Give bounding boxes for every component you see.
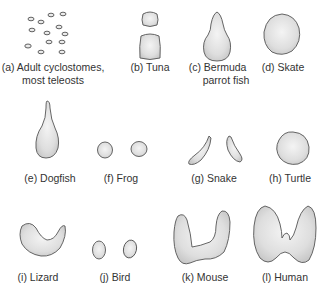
- panel-k-label-line1: (k) Mouse: [182, 271, 229, 284]
- panel-l-human-shape: [254, 206, 316, 263]
- panel-h-label-line1: (h) Turtle: [269, 172, 311, 185]
- panel-c-label-line1: (c) Bermuda: [189, 61, 250, 74]
- panel-b-label-line1: (b) Tuna: [130, 61, 169, 74]
- panel-i-label: (i) Lizard: [18, 271, 59, 284]
- panel-h-label: (h) Turtle: [269, 172, 311, 185]
- panel-a-label-line2: most teleosts: [2, 74, 105, 87]
- thyroid-comparative-anatomy-figure: (a) Adult cyclostomes, most teleosts (b)…: [0, 0, 318, 286]
- panel-d-skate-shape: [264, 14, 300, 54]
- panel-l-label-line1: (l) Human: [262, 271, 308, 284]
- panel-d-label: (d) Skate: [262, 61, 305, 74]
- panel-l-label: (l) Human: [262, 271, 308, 284]
- panel-e-label: (e) Dogfish: [24, 172, 75, 185]
- panel-h-turtle-shape: [277, 132, 309, 165]
- panel-k-label: (k) Mouse: [182, 271, 229, 284]
- panel-e-dogfish-shape: [36, 101, 59, 158]
- panel-a-follicles-shape: [25, 12, 68, 54]
- panel-f-label-line1: (f) Frog: [104, 172, 138, 185]
- panel-f-label: (f) Frog: [104, 172, 138, 185]
- panel-j-label: (j) Bird: [100, 271, 131, 284]
- panel-d-label-line1: (d) Skate: [262, 61, 305, 74]
- panel-g-label: (g) Snake: [191, 172, 237, 185]
- panel-a-label-line1: (a) Adult cyclostomes,: [2, 61, 105, 74]
- panel-i-lizard-shape: [20, 223, 65, 256]
- panel-j-bird-shape: [93, 239, 139, 259]
- panel-g-snake-shape: [189, 136, 242, 165]
- panel-j-label-line1: (j) Bird: [100, 271, 131, 284]
- gland-shapes: [0, 0, 318, 286]
- panel-f-frog-shape: [98, 142, 148, 159]
- panel-c-label-line2: parrot fish: [189, 74, 250, 87]
- panel-c-label: (c) Bermuda parrot fish: [189, 61, 250, 87]
- panel-i-label-line1: (i) Lizard: [18, 271, 59, 284]
- panel-k-mouse-shape: [174, 211, 230, 264]
- panel-c-parrotfish-shape: [204, 12, 231, 61]
- panel-e-label-line1: (e) Dogfish: [24, 172, 75, 185]
- panel-b-label: (b) Tuna: [130, 61, 169, 74]
- panel-g-label-line1: (g) Snake: [191, 172, 237, 185]
- panel-a-label: (a) Adult cyclostomes, most teleosts: [2, 61, 105, 87]
- panel-b-tuna-shape: [140, 12, 161, 60]
